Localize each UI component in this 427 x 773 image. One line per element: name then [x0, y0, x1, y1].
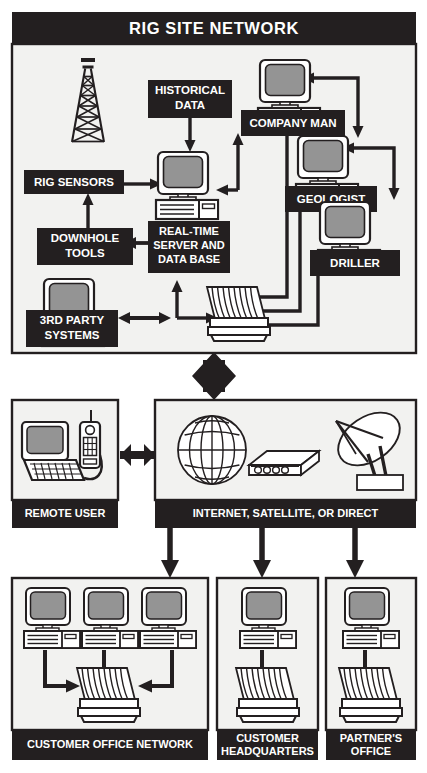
driller-label: DRILLER: [330, 257, 381, 269]
customer-headquarters-label-line2: HEADQUARTERS: [221, 745, 314, 757]
remote-user-label: REMOTE USER: [25, 507, 106, 519]
node-downhole-tools[interactable]: DOWNHOLE TOOLS: [37, 228, 133, 265]
partners-office-label-line1: PARTNER'S: [340, 732, 402, 744]
diagram-canvas: RIG SITE NETWORK: [0, 0, 427, 773]
panel-remote-user: REMOTE USER: [12, 400, 118, 528]
panel-internet: INTERNET, SATELLITE, OR DIRECT: [155, 400, 416, 528]
panel-customer-headquarters: CUSTOMER HEADQUARTERS: [217, 578, 318, 760]
real-time-server-computer-icon: [156, 152, 218, 219]
page-title: RIG SITE NETWORK: [129, 19, 299, 37]
panel-customer-office-network: CUSTOMER OFFICE NETWORK: [12, 578, 208, 760]
downhole-tools-label-line1: DOWNHOLE: [51, 232, 120, 244]
historical-data-label-line2: DATA: [175, 99, 205, 111]
node-historical-data[interactable]: HISTORICAL DATA: [148, 80, 232, 118]
rig-sensors-label: RIG SENSORS: [34, 176, 114, 188]
customer-office-network-label: CUSTOMER OFFICE NETWORK: [27, 738, 193, 750]
partners-office-label-line2: OFFICE: [351, 745, 391, 757]
internet-label: INTERNET, SATELLITE, OR DIRECT: [193, 507, 379, 519]
real-time-server-label-line2: SERVER AND: [153, 239, 225, 251]
third-party-systems-label-line2: SYSTEMS: [45, 329, 100, 341]
panel-partners-office: PARTNER'S OFFICE: [326, 578, 416, 760]
historical-data-label-line1: HISTORICAL: [155, 84, 225, 96]
real-time-server-label-line1: REAL-TIME: [159, 225, 219, 237]
third-party-systems-label-line1: 3RD PARTY: [40, 314, 105, 326]
rig-site-network-diagram: RIG SITE NETWORK: [0, 0, 427, 773]
downhole-tools-label-line2: TOOLS: [65, 247, 105, 259]
customer-headquarters-label-line1: CUSTOMER: [236, 732, 299, 744]
node-rig-sensors[interactable]: RIG SENSORS: [24, 170, 124, 194]
real-time-server-label-line3: DATA BASE: [158, 253, 220, 265]
company-man-label: COMPANY MAN: [249, 117, 336, 129]
globe-icon: [178, 416, 246, 484]
